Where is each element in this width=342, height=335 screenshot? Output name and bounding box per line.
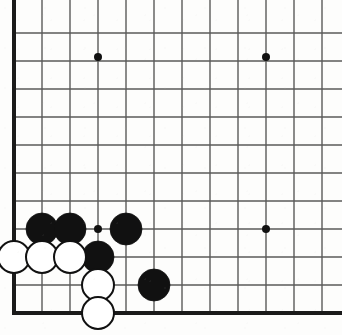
- stone-black-3[interactable]: [110, 213, 142, 245]
- star-point-2-icon: [262, 53, 270, 61]
- stone-black-5[interactable]: [138, 269, 170, 301]
- stone-white-3[interactable]: [54, 241, 86, 273]
- star-point-3-icon: [94, 225, 102, 233]
- go-board-canvas[interactable]: [0, 0, 342, 335]
- stone-white-5[interactable]: [82, 297, 114, 329]
- go-board[interactable]: [0, 0, 342, 335]
- star-point-4-icon: [262, 225, 270, 233]
- star-point-1-icon: [94, 53, 102, 61]
